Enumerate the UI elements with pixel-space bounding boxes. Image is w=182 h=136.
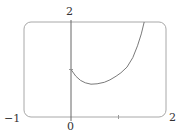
- x-min-label: −1: [4, 113, 20, 124]
- y-max-label: 2: [66, 6, 73, 17]
- function-curve: [71, 22, 144, 84]
- viewing-window-frame: [24, 22, 166, 117]
- x-zero-label: 0: [67, 121, 74, 132]
- chart-canvas: [0, 0, 182, 136]
- x-max-label: 2: [169, 112, 176, 123]
